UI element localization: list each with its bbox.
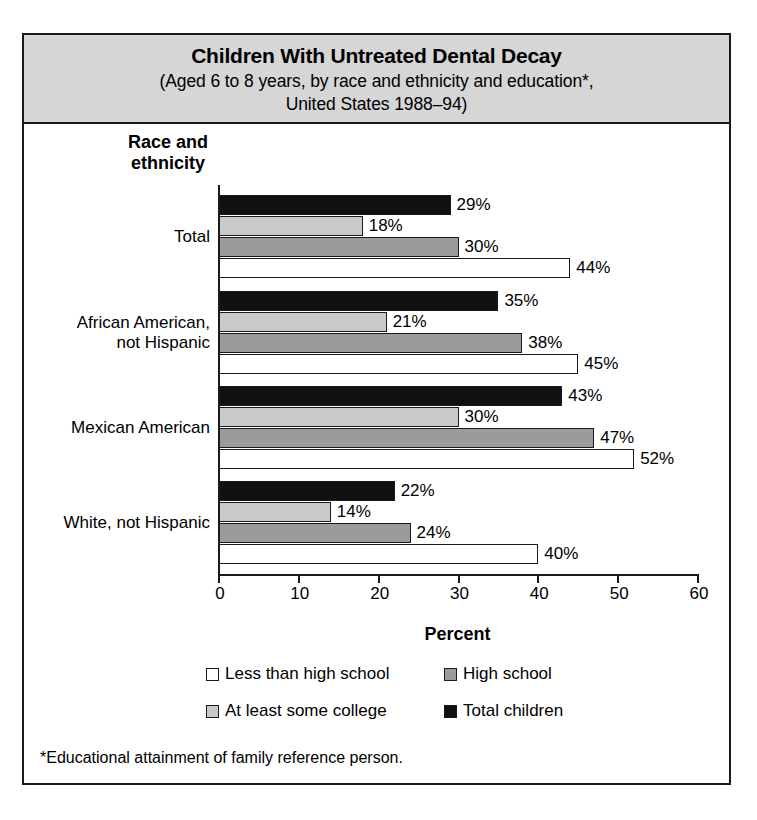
x-axis-tick-label: 60 bbox=[679, 584, 719, 604]
category-label: African American,not Hispanic bbox=[20, 313, 210, 353]
bar-col[interactable] bbox=[219, 407, 459, 427]
bar-value-label: 45% bbox=[579, 354, 618, 374]
bar-hs[interactable] bbox=[219, 333, 522, 353]
legend-swatch-icon-at-least-some-college bbox=[206, 705, 219, 718]
bar-value-label: 30% bbox=[460, 407, 499, 427]
legend-item-at-least-some-college[interactable]: At least some college bbox=[206, 701, 444, 721]
x-axis-tick-label: 40 bbox=[519, 584, 559, 604]
figure-subtitle-line-2: United States 1988–94) bbox=[24, 94, 729, 115]
legend-label-less-than-high-school: Less than high school bbox=[225, 664, 389, 684]
y-axis-title-line-2: ethnicity bbox=[108, 153, 228, 174]
bar-value-label: 52% bbox=[635, 449, 674, 469]
figure-footnote: *Educational attainment of family refere… bbox=[40, 749, 403, 767]
legend-item-less-than-high-school[interactable]: Less than high school bbox=[206, 664, 444, 684]
bar-hs[interactable] bbox=[219, 428, 594, 448]
category-label-line: White, not Hispanic bbox=[20, 513, 210, 533]
x-axis-tick-label: 0 bbox=[200, 584, 240, 604]
legend-label-total-children: Total children bbox=[463, 701, 563, 721]
figure-title: Children With Untreated Dental Decay bbox=[24, 44, 729, 69]
bar-value-label: 24% bbox=[412, 523, 451, 543]
bar-hs[interactable] bbox=[219, 523, 411, 543]
bar-lths[interactable] bbox=[219, 449, 634, 469]
x-axis-tick bbox=[218, 576, 220, 583]
bar-lths[interactable] bbox=[219, 544, 538, 564]
bar-value-label: 14% bbox=[332, 502, 371, 522]
x-axis-tick bbox=[697, 576, 699, 583]
category-label: Mexican American bbox=[20, 418, 210, 438]
legend-item-high-school[interactable]: High school bbox=[444, 664, 552, 684]
x-axis-title: Percent bbox=[218, 624, 697, 645]
bar-col[interactable] bbox=[219, 216, 363, 236]
bar-value-label: 47% bbox=[595, 428, 634, 448]
bar-total[interactable] bbox=[219, 386, 562, 406]
bar-value-label: 21% bbox=[388, 312, 427, 332]
bar-value-label: 35% bbox=[499, 291, 538, 311]
legend-swatch-icon-high-school bbox=[444, 668, 457, 681]
bar-total[interactable] bbox=[219, 291, 498, 311]
x-axis-tick bbox=[458, 576, 460, 583]
category-label: Total bbox=[20, 227, 210, 247]
bar-hs[interactable] bbox=[219, 237, 459, 257]
bar-value-label: 44% bbox=[571, 258, 610, 278]
chart-legend: Less than high school High school At lea… bbox=[206, 664, 636, 738]
legend-swatch-icon-less-than-high-school bbox=[206, 668, 219, 681]
plot-area: 0102030405060 29%18%30%44%35%21%38%45%43… bbox=[218, 185, 697, 574]
bar-value-label: 43% bbox=[563, 386, 602, 406]
figure-title-band: Children With Untreated Dental Decay (Ag… bbox=[24, 35, 729, 124]
legend-label-high-school: High school bbox=[463, 664, 552, 684]
category-label-line: Total bbox=[20, 227, 210, 247]
x-axis-tick-label: 10 bbox=[280, 584, 320, 604]
x-axis-tick-label: 20 bbox=[360, 584, 400, 604]
x-axis-tick bbox=[537, 576, 539, 583]
bar-total[interactable] bbox=[219, 195, 451, 215]
category-label-line: Mexican American bbox=[20, 418, 210, 438]
bar-value-label: 18% bbox=[364, 216, 403, 236]
bar-lths[interactable] bbox=[219, 258, 570, 278]
legend-row-1: Less than high school High school bbox=[206, 664, 636, 684]
bar-lths[interactable] bbox=[219, 354, 578, 374]
bar-value-label: 30% bbox=[460, 237, 499, 257]
figure-subtitle-line-1: (Aged 6 to 8 years, by race and ethnicit… bbox=[24, 71, 729, 92]
bar-value-label: 40% bbox=[539, 544, 578, 564]
legend-label-at-least-some-college: At least some college bbox=[225, 701, 387, 721]
category-label-line: not Hispanic bbox=[20, 333, 210, 353]
y-axis-title-line-1: Race and bbox=[108, 132, 228, 153]
legend-row-2: At least some college Total children bbox=[206, 701, 636, 721]
x-axis-tick-label: 30 bbox=[440, 584, 480, 604]
bar-total[interactable] bbox=[219, 481, 395, 501]
bar-col[interactable] bbox=[219, 312, 387, 332]
x-axis-tick bbox=[378, 576, 380, 583]
legend-item-total-children[interactable]: Total children bbox=[444, 701, 563, 721]
x-axis-tick bbox=[298, 576, 300, 583]
category-label: White, not Hispanic bbox=[20, 513, 210, 533]
bar-col[interactable] bbox=[219, 502, 331, 522]
bar-value-label: 22% bbox=[396, 481, 435, 501]
category-label-line: African American, bbox=[20, 313, 210, 333]
bar-value-label: 29% bbox=[452, 195, 491, 215]
bar-value-label: 38% bbox=[523, 333, 562, 353]
x-axis-tick-label: 50 bbox=[599, 584, 639, 604]
plot-region: Race and ethnicity 0102030405060 29%18%3… bbox=[24, 124, 729, 782]
figure-frame: Children With Untreated Dental Decay (Ag… bbox=[22, 33, 731, 785]
x-axis-tick bbox=[617, 576, 619, 583]
legend-swatch-icon-total-children bbox=[444, 705, 457, 718]
y-axis-title: Race and ethnicity bbox=[108, 132, 228, 174]
